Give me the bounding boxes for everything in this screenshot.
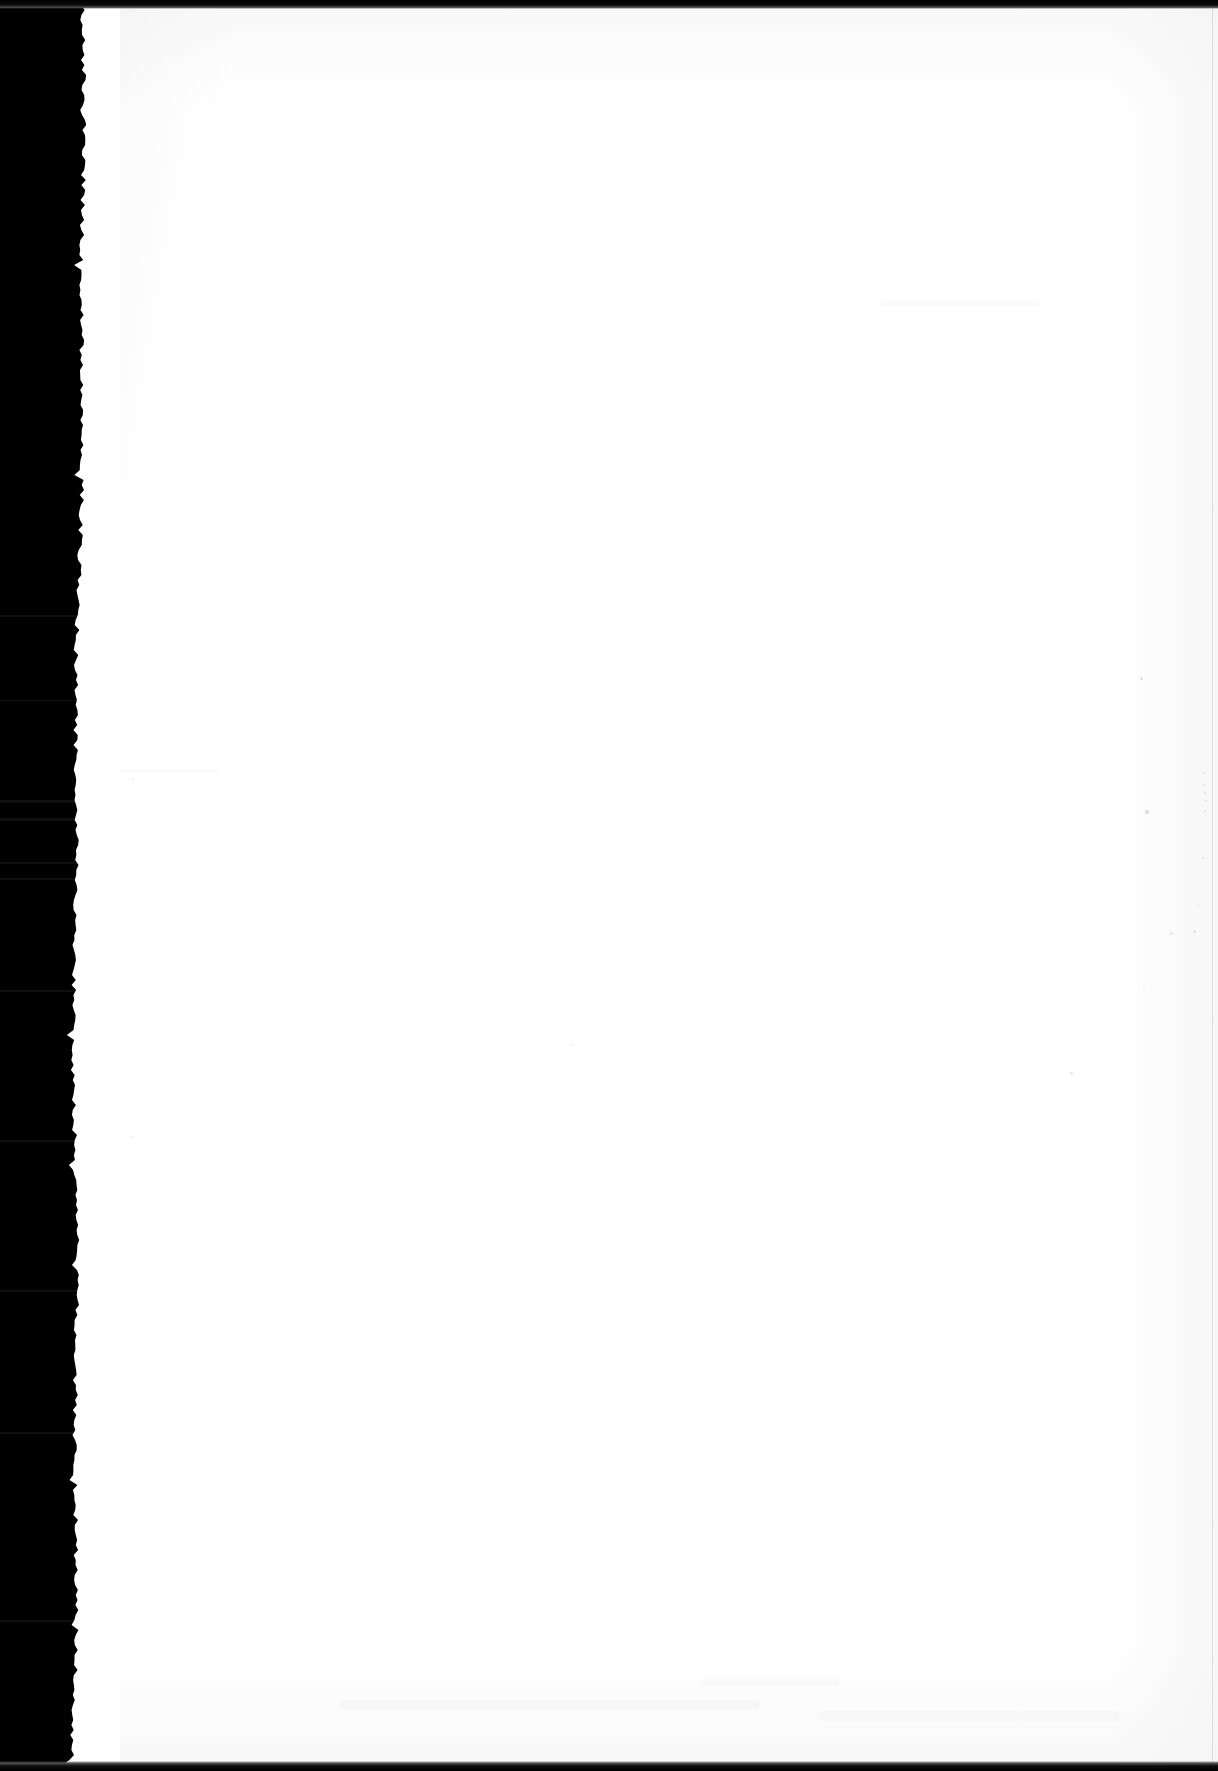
top-frame-strip [0,0,1218,9]
torn-page-edge [0,0,120,1771]
paper-tone-overlay [0,0,1218,1771]
right-sheet-edge-rule [1212,0,1213,1771]
bottom-frame-strip [0,1761,1218,1771]
paper-sheet [0,0,1218,1771]
scanned-page-canvas: Blank scanned page [0,0,1218,1771]
